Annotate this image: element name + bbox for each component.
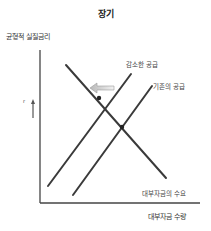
existing-supply-label: 기존의 공급: [153, 84, 185, 91]
r-label: r: [23, 99, 25, 104]
demand-line: [66, 65, 166, 178]
supply-shift-arrow-icon: [90, 83, 114, 93]
old-equilibrium-point: [120, 125, 124, 129]
x-axis-label: 대부자금 수량: [148, 214, 186, 221]
rate-up-arrow-icon: [31, 99, 35, 118]
reduced-supply-label: 감소한 공급: [126, 62, 158, 69]
new-equilibrium-point: [97, 96, 101, 100]
demand-label: 대부자금의 수요: [142, 191, 186, 198]
existing-supply-line: [73, 86, 152, 195]
